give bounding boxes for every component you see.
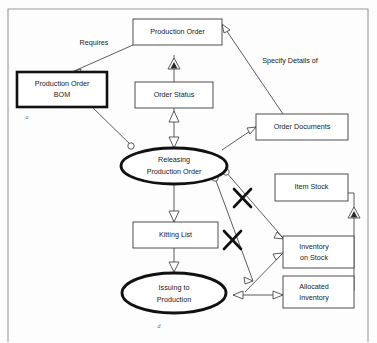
node-inventory-on-stock[interactable]: Inventory on Stock	[283, 236, 354, 268]
node-allocated-inventory[interactable]: Allocated Inventory	[283, 276, 354, 308]
node-releasing-production-order-label-2: Production Order	[147, 167, 202, 176]
edge-bom-to-releasing	[92, 107, 134, 149]
node-production-order-label: Production Order	[150, 27, 205, 36]
node-releasing-production-order[interactable]: Releasing Production Order	[121, 148, 227, 184]
node-production-order[interactable]: Production Order	[133, 19, 222, 45]
node-order-documents-label: Order Documents	[274, 122, 331, 131]
edge-kitting-list-issuing	[169, 248, 179, 272]
node-issuing-to-production[interactable]: Issuing to Production	[122, 273, 226, 313]
node-order-documents[interactable]: Order Documents	[256, 114, 348, 140]
node-releasing-production-order-label-1: Releasing	[158, 155, 190, 164]
node-inventory-on-stock-label-2: on Stock	[300, 253, 328, 262]
edge-order-status-releasing	[169, 108, 179, 148]
node-issuing-to-production-label-2: Production	[157, 295, 191, 304]
edge-issuing-allocated-inventory	[233, 291, 283, 299]
node-item-stock[interactable]: Item Stock	[275, 174, 348, 201]
node-production-order-bom[interactable]: Production Order BOM	[17, 72, 107, 107]
node-production-order-bom-label-1: Production Order	[35, 79, 90, 88]
edge-releasing-kitting-list	[169, 183, 179, 222]
node-inventory-on-stock-label-1: Inventory	[299, 242, 329, 251]
node-order-status[interactable]: Order Status	[135, 82, 213, 108]
node-allocated-inventory-label-1: Allocated	[299, 282, 329, 291]
edge-specify-details-of	[222, 24, 283, 114]
node-kitting-list[interactable]: Kitting List	[133, 222, 218, 248]
edge-production-order-status	[168, 55, 180, 82]
annotation-mark-issuing: d	[158, 323, 162, 329]
annotation-mark-bom: a	[26, 114, 29, 120]
node-kitting-list-label: Kitting List	[159, 230, 192, 239]
edge-allocated-to-inventory	[245, 253, 283, 292]
edge-label-specify-details-of: Specify Details of	[262, 56, 318, 65]
diagram-canvas: Production Order Production Order BOM Or…	[0, 0, 377, 343]
node-production-order-bom-label-2: BOM	[54, 90, 70, 99]
cross-out-mark-2	[224, 231, 241, 249]
node-item-stock-label: Item Stock	[295, 182, 329, 191]
edge-releasing-order-documents	[222, 127, 256, 150]
node-allocated-inventory-label-2: Inventory	[299, 293, 329, 302]
node-order-status-label: Order Status	[154, 90, 195, 99]
node-issuing-to-production-label-1: Issuing to	[159, 283, 190, 292]
edge-label-requires: Requires	[80, 38, 109, 47]
